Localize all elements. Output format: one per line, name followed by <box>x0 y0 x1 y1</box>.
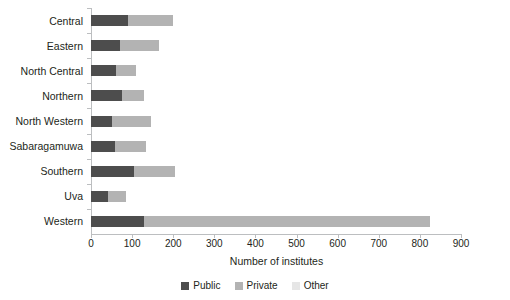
x-axis-line <box>91 234 462 235</box>
bar-row <box>91 216 461 227</box>
bar-segment-public <box>91 116 112 127</box>
bar-segment-public <box>91 141 115 152</box>
legend-label: Other <box>304 280 329 291</box>
y-axis-label-north-western: North Western <box>16 114 84 128</box>
bar-row <box>91 15 461 26</box>
bar-row <box>91 166 461 177</box>
bar-segment-public <box>91 191 108 202</box>
legend-item-other[interactable]: Other <box>292 280 329 291</box>
legend-swatch-icon <box>181 282 189 290</box>
chart-legend: PublicPrivateOther <box>0 280 510 291</box>
bar-segment-private <box>108 191 126 202</box>
x-axis-tick-label: 800 <box>400 238 440 249</box>
y-axis-label-central: Central <box>49 14 83 28</box>
x-axis-tick-label: 100 <box>112 238 152 249</box>
y-axis-label-southern: Southern <box>40 164 83 178</box>
bar-segment-public <box>91 65 116 76</box>
x-axis-title: Number of institutes <box>91 255 462 267</box>
bar-segment-private <box>116 65 137 76</box>
y-axis-label-sabaragamuwa: Sabaragamuwa <box>9 139 83 153</box>
legend-item-private[interactable]: Private <box>235 280 278 291</box>
bar-segment-private <box>115 141 147 152</box>
plot-area <box>91 8 461 234</box>
y-axis-label-northern: Northern <box>42 89 83 103</box>
bar-segment-public <box>91 216 144 227</box>
bar-segment-private <box>134 166 175 177</box>
x-axis-tick-label: 300 <box>194 238 234 249</box>
bar-segment-public <box>91 40 120 51</box>
bar-segment-private <box>128 15 173 26</box>
x-axis-tick-label: 600 <box>318 238 358 249</box>
bar-row <box>91 90 461 101</box>
legend-label: Public <box>193 280 220 291</box>
bar-segment-public <box>91 90 122 101</box>
bar-row <box>91 141 461 152</box>
x-axis-tick-label: 200 <box>153 238 193 249</box>
bar-segment-private <box>120 40 159 51</box>
bar-row <box>91 191 461 202</box>
bar-segment-public <box>91 166 134 177</box>
bar-row <box>91 40 461 51</box>
legend-swatch-icon <box>292 282 300 290</box>
legend-item-public[interactable]: Public <box>181 280 220 291</box>
x-axis-tick-label: 500 <box>277 238 317 249</box>
bar-chart: CentralEasternNorth CentralNorthernNorth… <box>0 0 510 300</box>
y-axis-label-western: Western <box>44 214 83 228</box>
y-axis-category-labels: CentralEasternNorth CentralNorthernNorth… <box>0 8 87 234</box>
legend-swatch-icon <box>235 282 243 290</box>
bar-segment-private <box>144 216 430 227</box>
bar-segment-private <box>122 90 145 101</box>
y-axis-label-uva: Uva <box>64 189 83 203</box>
bar-row <box>91 116 461 127</box>
x-axis-tick-label: 900 <box>441 238 481 249</box>
x-axis-tick-label: 700 <box>359 238 399 249</box>
bar-segment-private <box>112 116 151 127</box>
cropped-title-remnant <box>0 0 300 5</box>
bar-segment-public <box>91 15 128 26</box>
legend-label: Private <box>247 280 278 291</box>
bar-row <box>91 65 461 76</box>
y-axis-label-north-central: North Central <box>21 64 83 78</box>
y-axis-label-eastern: Eastern <box>47 39 83 53</box>
x-axis-tick-label: 0 <box>71 238 111 249</box>
x-axis-tick-label: 400 <box>235 238 275 249</box>
